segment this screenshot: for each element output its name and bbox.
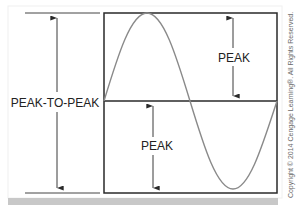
sine-wave-diagram: PEAK-TO-PEAK PEAK PEAK Copyright © 2014 … [0,0,300,213]
upper-peak-label: PEAK [218,51,250,65]
copyright-notice: Copyright © 2014 Cengage Learning®. All … [287,12,295,198]
peak-to-peak-label: PEAK-TO-PEAK [11,96,99,110]
lower-peak-label: PEAK [141,139,173,153]
footer-bar [8,198,278,205]
